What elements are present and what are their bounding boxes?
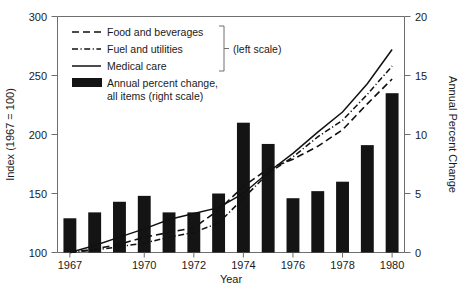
legend-label-fuel-and-utilities: Fuel and utilities: [107, 43, 183, 55]
x-tick-label-1972: 1972: [182, 259, 206, 271]
cpi-index-chart: 300 250 200 150 100 20 15 10 5 0 1967197…: [0, 0, 463, 287]
legend-label-food-and-beverages: Food and beverages: [107, 26, 203, 38]
right-tick-label-10: 10: [415, 129, 427, 141]
x-tick-label-1974: 1974: [231, 259, 255, 271]
left-tick-label-100: 100: [29, 247, 47, 259]
x-tick-label-1970: 1970: [132, 259, 156, 271]
right-tick-label-0: 0: [415, 247, 421, 259]
bar-1977: [311, 191, 324, 252]
legend-label-annual-percent-change-line1: Annual percent change,: [107, 77, 218, 89]
y-axis-title-left: Index (1967 = 100): [4, 88, 16, 181]
right-tick-label-20: 20: [415, 11, 427, 23]
bar-1980: [386, 93, 399, 252]
left-axis-ticks: 300 250 200 150 100: [29, 11, 58, 259]
bar-1978: [336, 182, 349, 253]
bar-1974: [237, 123, 250, 253]
x-tick-label-1980: 1980: [380, 259, 404, 271]
x-tick-label-1976: 1976: [281, 259, 305, 271]
x-axis-title: Year: [220, 273, 243, 285]
left-tick-label-200: 200: [29, 129, 47, 141]
right-tick-label-5: 5: [415, 188, 421, 200]
legend-label-annual-percent-change-line2: all items (right scale): [107, 90, 203, 102]
bar-1975: [262, 144, 275, 253]
bar-1976: [287, 198, 300, 252]
legend-bracket-note: (left scale): [233, 43, 281, 55]
bar-1967: [63, 218, 76, 252]
left-tick-label-150: 150: [29, 188, 47, 200]
bar-series-annual-percent-change: [63, 93, 398, 252]
x-tick-label-1967: 1967: [58, 259, 82, 271]
x-axis-ticks: 1967197019721974197619781980: [58, 253, 405, 271]
right-axis-ticks: 20 15 10 5 0: [405, 11, 428, 259]
left-tick-label-300: 300: [29, 11, 47, 23]
left-tick-label-250: 250: [29, 70, 47, 82]
legend-swatch-annual-percent-change: [72, 78, 102, 87]
chart-legend: Food and beverages Fuel and utilities Me…: [72, 26, 281, 102]
y-axis-title-right: Annual Percent Change: [447, 76, 459, 193]
x-tick-label-1978: 1978: [330, 259, 354, 271]
right-tick-label-15: 15: [415, 70, 427, 82]
legend-label-medical-care: Medical care: [107, 60, 167, 72]
chart-container: 300 250 200 150 100 20 15 10 5 0 1967197…: [0, 0, 463, 287]
legend-bracket: [219, 26, 224, 71]
bar-1979: [361, 145, 374, 252]
